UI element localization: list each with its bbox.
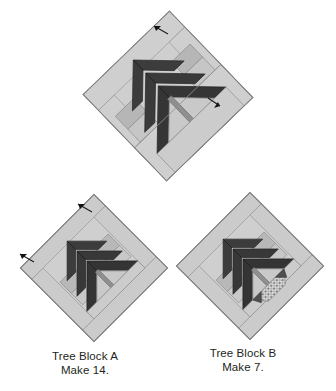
tree-block-b-svg — [174, 190, 326, 342]
caption-block-a-line2: Make 14. — [5, 364, 165, 378]
caption-block-b-line2: Make 7. — [163, 361, 323, 375]
tree-block-top — [84, 12, 252, 180]
tree-block-a — [18, 192, 170, 344]
caption-block-b: Tree Block B Make 7. — [163, 347, 323, 374]
caption-block-a: Tree Block A Make 14. — [5, 350, 165, 377]
tree-block-a-svg — [18, 192, 170, 344]
caption-block-b-line1: Tree Block B — [163, 347, 323, 361]
tree-block-top-svg — [84, 12, 252, 180]
diagram-canvas: Tree Block A Make 14. Tree Block B Make … — [0, 0, 336, 391]
tree-block-b — [174, 190, 326, 342]
caption-block-a-line1: Tree Block A — [5, 350, 165, 364]
